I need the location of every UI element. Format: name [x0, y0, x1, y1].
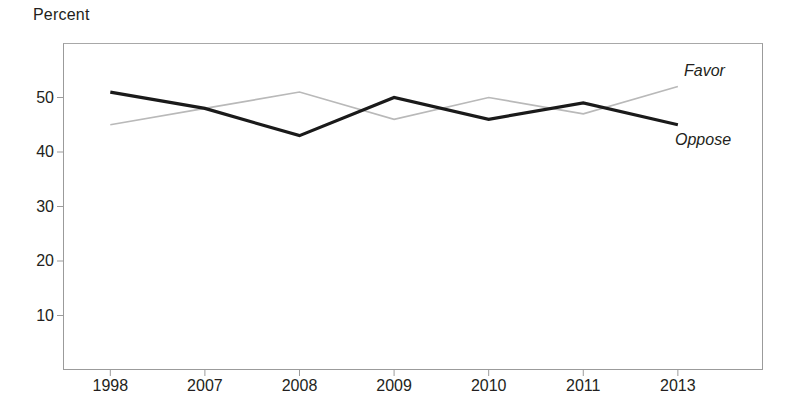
x-axis-tick-label: 2008	[254, 377, 344, 395]
series-label-oppose: Oppose	[675, 131, 731, 149]
x-axis-tick-label: 2009	[349, 377, 439, 395]
y-axis-tick-label: 20	[8, 252, 54, 270]
series-label-favor: Favor	[684, 62, 725, 80]
y-axis-tick-label: 50	[8, 89, 54, 107]
x-axis-tick-label: 2007	[160, 377, 250, 395]
plot-area	[63, 43, 763, 370]
y-axis-tick-label: 30	[8, 198, 54, 216]
x-axis-tick-label: 2010	[444, 377, 534, 395]
y-axis-title: Percent	[33, 6, 90, 24]
x-axis-tick-label: 2011	[538, 377, 628, 395]
chart-figure: Percent 1020304050 199820072008200920102…	[0, 0, 791, 420]
x-axis-tick-label: 2013	[633, 377, 723, 395]
y-axis-tick-label: 10	[8, 307, 54, 325]
y-axis-tick-label: 40	[8, 143, 54, 161]
x-axis-tick-label: 1998	[65, 377, 155, 395]
